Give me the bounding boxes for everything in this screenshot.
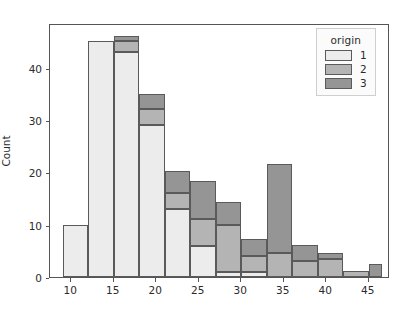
- legend-item-label: 3: [360, 78, 367, 89]
- bar-segment-origin-1: [139, 125, 165, 277]
- histogram-bar: [190, 181, 216, 277]
- x-tick-label: 35: [276, 284, 289, 296]
- y-tick-label: 40: [12, 63, 42, 75]
- x-tick-mark: [198, 278, 199, 282]
- histogram-bar: [241, 239, 267, 277]
- histogram-bar: [343, 271, 369, 277]
- x-tick-label: 40: [319, 284, 332, 296]
- bar-segment-origin-3: [190, 181, 216, 219]
- histogram-bar: [139, 94, 165, 277]
- histogram-bar: [292, 245, 318, 277]
- legend-item-origin-3: 3: [325, 78, 367, 89]
- x-tick-mark: [113, 278, 114, 282]
- histogram-bar: [216, 202, 242, 277]
- histogram-bar: [318, 253, 344, 277]
- bar-segment-origin-2: [165, 193, 191, 209]
- legend-title: origin: [325, 34, 367, 46]
- legend-swatch-icon: [325, 64, 352, 75]
- bar-segment-origin-1: [63, 225, 89, 277]
- bar-segment-origin-2: [292, 261, 318, 277]
- x-tick-label: 10: [64, 284, 77, 296]
- bar-segment-origin-3: [165, 171, 191, 194]
- x-tick-mark: [325, 278, 326, 282]
- y-tick-mark: [46, 278, 50, 279]
- legend-swatch-icon: [325, 78, 352, 89]
- legend-item-label: 1: [360, 50, 367, 61]
- bar-segment-origin-2: [241, 256, 267, 272]
- bar-segment-origin-1: [190, 246, 216, 277]
- histogram-bar: [165, 171, 191, 277]
- bar-segment-origin-2: [318, 259, 344, 277]
- bar-segment-origin-1: [216, 272, 242, 277]
- x-tick-label: 20: [149, 284, 162, 296]
- legend-items: 123: [325, 50, 367, 89]
- bar-segment-origin-1: [241, 272, 267, 277]
- x-tick-label: 45: [361, 284, 374, 296]
- bar-segment-origin-2: [343, 271, 369, 277]
- legend-swatch-icon: [325, 50, 352, 61]
- bar-segment-origin-2: [190, 219, 216, 245]
- y-tick-label: 30: [12, 115, 42, 127]
- y-tick-label: 0: [12, 272, 42, 284]
- y-tick-mark: [46, 121, 50, 122]
- legend-item-label: 2: [360, 64, 367, 75]
- histogram-bar: [267, 164, 293, 277]
- y-axis-label: Count: [0, 135, 12, 166]
- bar-segment-origin-3: [267, 164, 293, 253]
- bar-segment-origin-2: [216, 225, 242, 272]
- bar-segment-origin-2: [139, 109, 165, 125]
- x-tick-mark: [155, 278, 156, 282]
- bar-segment-origin-1: [88, 41, 114, 277]
- x-tick-mark: [240, 278, 241, 282]
- histogram-bar: [114, 36, 140, 277]
- bar-segment-origin-3: [241, 239, 267, 256]
- x-tick-mark: [368, 278, 369, 282]
- y-tick-label: 20: [12, 167, 42, 179]
- legend-item-origin-2: 2: [325, 64, 367, 75]
- bar-segment-origin-3: [292, 245, 318, 262]
- x-tick-label: 25: [191, 284, 204, 296]
- x-tick-label: 30: [234, 284, 247, 296]
- bar-segment-origin-2: [114, 41, 140, 51]
- y-tick-mark: [46, 173, 50, 174]
- bar-segment-origin-3: [369, 264, 382, 277]
- y-tick-mark: [46, 69, 50, 70]
- histogram-bar: [369, 264, 382, 277]
- bar-segment-origin-2: [267, 253, 293, 277]
- histogram-bar: [88, 41, 114, 277]
- bar-segment-origin-1: [165, 209, 191, 277]
- x-tick-mark: [70, 278, 71, 282]
- y-tick-mark: [46, 226, 50, 227]
- histogram-figure: Count 010203040 1015202530354045 origin …: [0, 0, 402, 309]
- bar-segment-origin-3: [216, 202, 242, 225]
- bar-segment-origin-3: [139, 94, 165, 110]
- y-tick-label: 10: [12, 220, 42, 232]
- legend-item-origin-1: 1: [325, 50, 367, 61]
- bar-segment-origin-1: [114, 52, 140, 277]
- x-tick-mark: [283, 278, 284, 282]
- histogram-bar: [63, 225, 89, 277]
- x-tick-label: 15: [106, 284, 119, 296]
- legend: origin 123: [316, 28, 376, 96]
